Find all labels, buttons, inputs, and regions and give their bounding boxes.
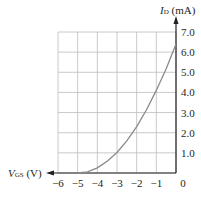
y-tick-label: 4.0 xyxy=(181,87,195,98)
x-tick-label: −3 xyxy=(111,178,123,189)
x-tick-label: −2 xyxy=(131,178,143,189)
x-tick-label: −6 xyxy=(52,178,64,189)
x-tick-label: −4 xyxy=(91,178,103,189)
x-axis-arrow-icon xyxy=(46,171,54,176)
x-axis-label: VGS (V) xyxy=(8,168,42,181)
y-tick-label: 7.0 xyxy=(181,27,195,38)
y-tick-label: 6.0 xyxy=(181,47,195,58)
x-tick-label: −1 xyxy=(150,178,162,189)
transfer-curve xyxy=(78,44,176,173)
y-tick-label: 5.0 xyxy=(181,67,195,78)
x-tick-label: 0 xyxy=(180,178,186,189)
x-tick-label: −5 xyxy=(72,178,84,189)
y-tick-label: 2.0 xyxy=(181,128,195,139)
y-tick-label: 3.0 xyxy=(181,108,195,119)
y-tick-label: 1.0 xyxy=(181,148,195,159)
axes xyxy=(46,16,179,176)
y-axis-label: ID (mA) xyxy=(160,5,195,18)
